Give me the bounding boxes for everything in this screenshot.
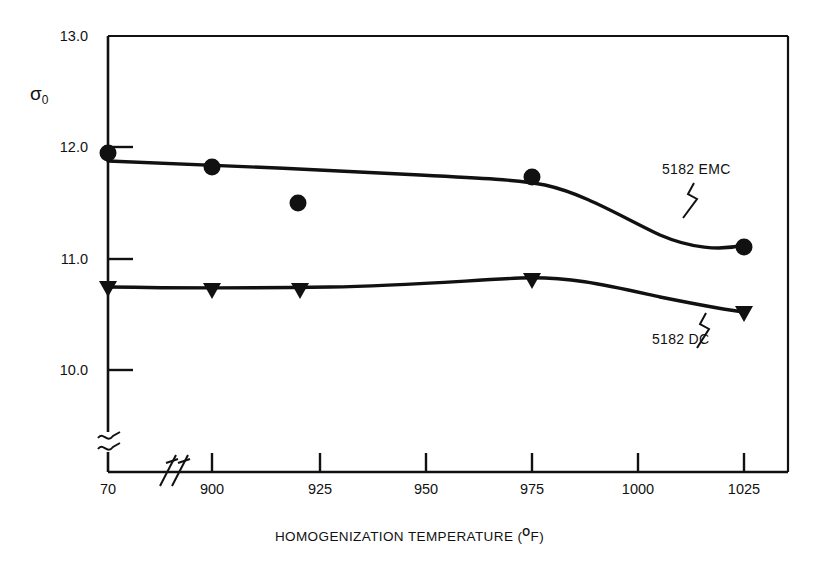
x-tick-label-950: 950 xyxy=(414,481,438,497)
x-axis-break-icon xyxy=(160,455,190,486)
leader-line-5182-emc xyxy=(683,183,697,218)
degree-symbol: O xyxy=(522,527,530,538)
data-point-marker xyxy=(523,273,541,289)
y-tick-label-10: 10.0 xyxy=(10,362,88,378)
data-point-marker xyxy=(99,281,117,297)
series-line-5182-emc xyxy=(108,161,744,248)
y-tick-label-13: 13.0 xyxy=(10,28,88,44)
y-tick-label-11: 11.0 xyxy=(10,251,88,267)
y-axis-title: σ0 xyxy=(30,83,48,107)
series-label-5182-emc: 5182 EMC xyxy=(662,161,731,177)
x-tick-label-1025: 1025 xyxy=(728,481,760,497)
series-markers-5182-emc xyxy=(100,145,753,256)
x-axis-title-text: HOMOGENIZATION TEMPERATURE ( xyxy=(275,529,522,544)
data-point-marker xyxy=(203,283,221,299)
x-tick-label-1000: 1000 xyxy=(622,481,654,497)
data-point-marker xyxy=(291,283,309,299)
chart-plot-area xyxy=(0,0,819,573)
x-tick-label-975: 975 xyxy=(520,481,544,497)
y-axis-break-icon xyxy=(98,432,120,450)
series-label-5182-dc: 5182 DC xyxy=(652,331,709,347)
series-line-5182-dc xyxy=(108,278,744,312)
y-axis-title-symbol: σ xyxy=(30,83,42,104)
data-point-marker xyxy=(290,195,307,212)
x-axis-title: HOMOGENIZATION TEMPERATURE (OF) xyxy=(275,527,544,544)
data-point-marker xyxy=(204,159,221,176)
x-axis-title-unit: F) xyxy=(531,529,545,544)
x-tick-label-925: 925 xyxy=(308,481,332,497)
y-axis-title-subscript: 0 xyxy=(42,93,49,107)
y-axis-ticks xyxy=(108,147,133,370)
axis-frame xyxy=(108,36,788,472)
y-tick-label-12: 12.0 xyxy=(10,139,88,155)
data-point-marker xyxy=(736,239,753,256)
chart-figure: σ0 HOMOGENIZATION TEMPERATURE (OF) 13.0 … xyxy=(0,0,819,573)
x-axis-ticks xyxy=(212,453,744,472)
x-tick-label-70: 70 xyxy=(100,481,116,497)
data-point-marker xyxy=(735,306,753,322)
x-tick-label-900: 900 xyxy=(200,481,224,497)
data-point-marker xyxy=(524,169,541,186)
data-point-marker xyxy=(100,145,117,162)
